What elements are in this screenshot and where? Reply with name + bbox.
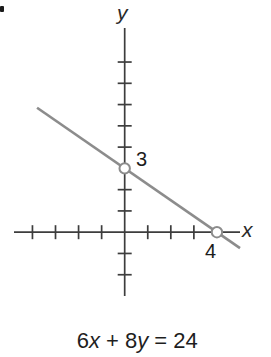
equation-coef1: 6	[77, 328, 89, 353]
equation-rhs: = 24	[148, 328, 198, 353]
y-intercept-label: 3	[136, 149, 147, 169]
equation-var-x: x	[89, 328, 100, 353]
graphed-line	[37, 108, 240, 248]
line-equation: 6x + 8y = 24	[0, 305, 250, 357]
y-intercept-point	[119, 163, 129, 173]
x-intercept-label: 4	[205, 241, 216, 261]
equation-mid: + 8	[100, 328, 137, 353]
x-axis-label: x	[242, 219, 253, 240]
equation-var-y: y	[137, 328, 148, 353]
x-intercept-point	[212, 227, 222, 237]
